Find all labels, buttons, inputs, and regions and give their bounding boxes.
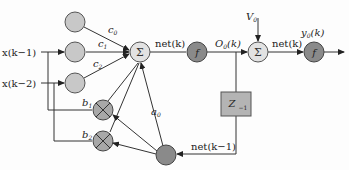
feedback-node bbox=[156, 145, 176, 165]
sum-symbol-1: Σ bbox=[136, 46, 144, 59]
weight-c2: c2 bbox=[93, 58, 103, 70]
signal-v0: V0 bbox=[246, 11, 257, 23]
diagram-canvas: Σ f Σ f Z −1 x(k−1) x(k−2) c0 c1 c2 b1 b… bbox=[0, 0, 349, 170]
input-node-c2 bbox=[65, 73, 85, 93]
sum-symbol-2: Σ bbox=[254, 46, 262, 59]
signal-y0-k: y0(k) bbox=[300, 27, 324, 39]
input-node-c1 bbox=[65, 42, 85, 62]
weight-a0: a0 bbox=[151, 106, 161, 118]
signal-net-k: net(k) bbox=[155, 38, 185, 49]
input-node-c0 bbox=[65, 12, 85, 32]
signal-o0-k: O0(k) bbox=[215, 38, 241, 50]
weight-c0: c0 bbox=[108, 24, 118, 36]
multiplier-b2 bbox=[93, 131, 113, 151]
delay-label: Z bbox=[228, 98, 237, 109]
signal-net-k-minus-1: net(k−1) bbox=[191, 141, 236, 152]
weight-b1: b1 bbox=[82, 97, 92, 109]
signal-net-k-2: net(k) bbox=[272, 38, 302, 49]
delay-sub: −1 bbox=[239, 104, 248, 111]
input-label-x1: x(k−1) bbox=[2, 47, 36, 58]
input-label-x2: x(k−2) bbox=[2, 78, 36, 89]
weight-b2: b2 bbox=[82, 129, 92, 141]
neural-network-diagram: Σ f Σ f Z −1 x(k−1) x(k−2) c0 c1 c2 b1 b… bbox=[0, 0, 349, 170]
multiplier-b1 bbox=[93, 100, 113, 120]
weight-c1: c1 bbox=[98, 38, 107, 50]
